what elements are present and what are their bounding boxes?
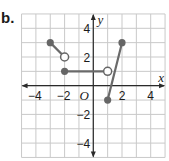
open-point [104,67,112,75]
x-tick-label: −2 [57,89,71,103]
closed-point [118,39,125,46]
x-tick-label: −4 [28,89,42,103]
y-tick-label: 2 [84,51,91,65]
x-axis-left-arrow-icon [22,83,28,88]
y-axis-top-arrow-icon [91,14,96,20]
y-tick-label: −2 [77,108,91,122]
y-axis-bottom-arrow-icon [91,151,96,157]
axis-labels: −4−22442−2−4Oxy [28,12,164,151]
closed-point [47,39,54,46]
closed-point [61,68,68,75]
closed-point [104,96,111,103]
x-tick-label: 2 [119,89,126,103]
axes [22,14,166,158]
x-tick-label: 4 [147,89,154,103]
y-tick-label: −4 [77,137,91,151]
coordinate-graph: −4−22442−2−4Oxy [0,0,169,161]
y-tick-label: 4 [84,22,91,36]
origin-label: O [80,88,90,103]
open-point [61,53,69,61]
x-axis-name: x [157,70,164,85]
y-axis-name: y [95,12,103,27]
